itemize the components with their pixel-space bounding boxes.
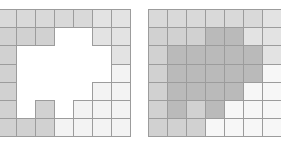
grid-cell (262, 82, 281, 101)
grid-cell (205, 118, 225, 137)
grid-cell (243, 27, 263, 46)
grid-cell (205, 45, 225, 65)
grid-cell (0, 64, 17, 83)
grid-cell (16, 118, 36, 137)
grid-cell (243, 100, 263, 119)
grid-cell (148, 64, 168, 83)
grid-cell (16, 27, 36, 46)
grid-cell (167, 82, 187, 101)
grid-cell (186, 118, 206, 137)
grid-cell (186, 82, 206, 101)
grid-cell (167, 118, 187, 137)
grid-cell (186, 9, 206, 28)
grid-cell (167, 45, 187, 65)
grid-cell (262, 118, 281, 137)
grid-cell (92, 82, 112, 101)
grid-cell (148, 100, 168, 119)
grid-cell (0, 9, 17, 28)
grid-cell (54, 9, 74, 28)
grid-cell (148, 118, 168, 137)
grid-cell (54, 118, 74, 137)
grid-cell (148, 9, 168, 28)
grid-cell (148, 82, 168, 101)
grid-cell (262, 27, 281, 46)
grid-cell (205, 9, 225, 28)
grid-cell (111, 9, 131, 28)
grid-cell (0, 118, 17, 137)
grid-cell (92, 27, 112, 46)
grid-cell (224, 64, 244, 83)
grid-cell (148, 27, 168, 46)
grid-cell (0, 27, 17, 46)
grid-cell (0, 45, 17, 65)
grid-cell (35, 100, 55, 119)
grid-cell (167, 64, 187, 83)
grid-cell (243, 9, 263, 28)
grid-cell (186, 64, 206, 83)
grid-cell (224, 118, 244, 137)
grid-cell (262, 64, 281, 83)
grid-cell (262, 9, 281, 28)
grid-cell (0, 82, 17, 101)
grid-cell (92, 118, 112, 137)
grid-cell (35, 9, 55, 28)
grid-cell (111, 27, 131, 46)
grid-cell (262, 100, 281, 119)
grid-cell (262, 45, 281, 65)
grid-cell (0, 100, 17, 119)
grid-cell (205, 82, 225, 101)
grid-cell (35, 118, 55, 137)
grid-cell (224, 27, 244, 46)
grid-cell (111, 100, 131, 119)
grid-cell (186, 27, 206, 46)
grid-cell (205, 27, 225, 46)
grid-cell (243, 82, 263, 101)
grid-cell (111, 118, 131, 137)
grid-cell (92, 9, 112, 28)
grid-cell (243, 118, 263, 137)
grid-cell (16, 9, 36, 28)
grid-cell (148, 45, 168, 65)
grid-cell (205, 100, 225, 119)
grid-cell (111, 82, 131, 101)
grid-cell (73, 118, 93, 137)
grid-cell (224, 9, 244, 28)
grid-cell (243, 64, 263, 83)
grid-cell (73, 100, 93, 119)
grid-cell (35, 27, 55, 46)
grid-cell (167, 27, 187, 46)
grid-cell (186, 100, 206, 119)
grid-cell (111, 64, 131, 83)
grid-cell (243, 45, 263, 65)
grid-cell (73, 9, 93, 28)
grid-cell (167, 9, 187, 28)
grid-cell (111, 45, 131, 65)
grid-cell (167, 100, 187, 119)
grid-cell (224, 82, 244, 101)
grid-cell (224, 45, 244, 65)
grid-cell (224, 100, 244, 119)
grid-cell (186, 45, 206, 65)
grid-cell (92, 100, 112, 119)
grid-cell (205, 64, 225, 83)
